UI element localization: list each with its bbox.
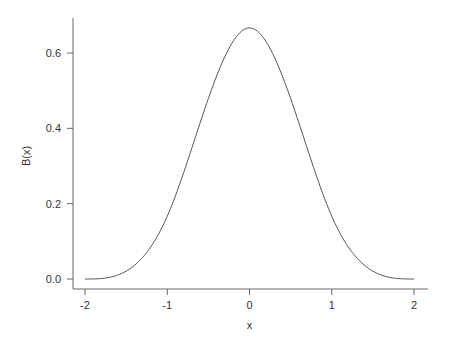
x-tick-label: 2 bbox=[411, 299, 417, 311]
plot-area bbox=[85, 28, 414, 279]
y-tick-label: 0.2 bbox=[46, 198, 61, 210]
x-axis-title: x bbox=[247, 319, 253, 331]
y-tick-label: 0.4 bbox=[46, 122, 61, 134]
y-tick-label: 0.6 bbox=[46, 47, 61, 59]
x-tick-label: 0 bbox=[246, 299, 252, 311]
x-axis: -2-1012 x bbox=[73, 289, 428, 331]
data-line bbox=[85, 28, 414, 279]
y-tick-label: 0.0 bbox=[46, 273, 61, 285]
x-tick-label: -2 bbox=[80, 299, 90, 311]
y-axis-title: B(x) bbox=[20, 146, 32, 166]
x-ticks: -2-1012 bbox=[80, 289, 417, 311]
x-tick-label: -1 bbox=[162, 299, 172, 311]
y-ticks: 0.00.20.40.6 bbox=[46, 47, 73, 285]
x-tick-label: 1 bbox=[329, 299, 335, 311]
y-axis: 0.00.20.40.6 B(x) bbox=[20, 18, 73, 289]
chart: 0.00.20.40.6 B(x) -2-1012 x bbox=[0, 0, 449, 348]
